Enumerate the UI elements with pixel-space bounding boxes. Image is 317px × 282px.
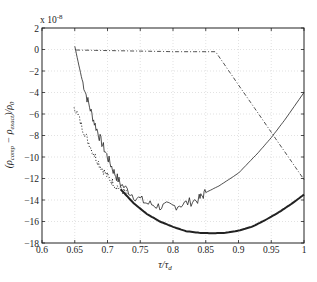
x-tick-label: 0.7 (102, 245, 114, 255)
y-tick-label: −12 (24, 174, 39, 184)
y-tick-label: −6 (29, 110, 39, 120)
data-series (74, 46, 304, 233)
svg-text:(ρcomp − ρexact)/ρ0: (ρcomp − ρexact)/ρ0 (3, 101, 15, 168)
series-line (121, 189, 304, 233)
y-tick-labels: 20−2−4−6−8−10−12−14−16−18 (24, 24, 39, 249)
x-tick-label: 0.95 (263, 245, 280, 255)
y-tick-label: −10 (24, 153, 39, 163)
y-tick-label: −16 (24, 217, 39, 227)
x-tick-label: 0.75 (132, 245, 149, 255)
y-tick-label: −14 (24, 196, 39, 206)
y-tick-label: −2 (29, 67, 39, 77)
x-tick-label: 0.9 (233, 245, 245, 255)
x-tick-labels: 0.60.650.70.750.80.850.90.951 (36, 245, 307, 255)
grid-lines (42, 28, 304, 243)
x-axis-label: τ/τd (158, 259, 172, 272)
y-multiplier-label: x 10-8 (40, 13, 63, 25)
y-tick-label: −18 (24, 239, 39, 249)
y-tick-label: −4 (29, 88, 39, 98)
y-tick-label: 2 (34, 24, 39, 34)
y-tick-label: −8 (29, 131, 39, 141)
series-line (76, 50, 304, 180)
x-tick-label: 1 (302, 245, 307, 255)
x-tick-label: 0.85 (197, 245, 214, 255)
line-chart: 0.60.650.70.750.80.850.90.951 20−2−4−6−8… (0, 0, 317, 282)
x-tick-label: 0.8 (167, 245, 179, 255)
y-axis-label: (ρcomp − ρexact)/ρ0 (3, 101, 15, 168)
y-tick-label: 0 (34, 45, 39, 55)
x-tick-label: 0.65 (66, 245, 83, 255)
